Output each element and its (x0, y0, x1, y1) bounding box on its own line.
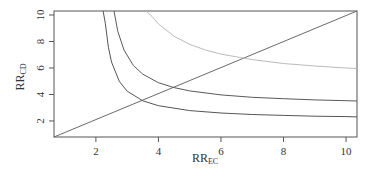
x-tick-label: 4 (156, 145, 162, 157)
x-tick-label: 6 (218, 145, 224, 157)
chart-container: 246810 246810 RREC RRCD (0, 0, 372, 180)
series-diagonal (54, 11, 357, 137)
series-layer (54, 11, 357, 137)
x-tick-label: 2 (93, 145, 99, 157)
y-tick-label: 2 (34, 118, 46, 124)
y-tick-label: 8 (34, 38, 46, 44)
series-curve-3 (146, 11, 357, 69)
x-axis-label: RREC (192, 151, 218, 166)
y-axis: 246810 (34, 9, 54, 124)
chart-svg: 246810 246810 RREC RRCD (0, 0, 372, 180)
x-tick-label: 8 (281, 145, 287, 157)
x-axis: 246810 (93, 137, 352, 157)
y-tick-label: 10 (34, 9, 46, 21)
series-curve-2 (114, 11, 357, 101)
y-tick-label: 6 (34, 65, 46, 71)
y-axis-label: RRCD (13, 63, 28, 90)
x-tick-label: 10 (341, 145, 353, 157)
y-tick-label: 4 (34, 91, 46, 97)
